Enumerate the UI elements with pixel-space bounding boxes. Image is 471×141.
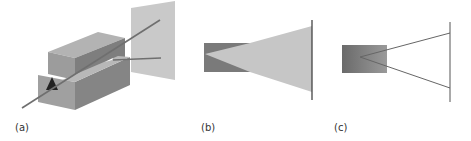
- panel-label-a: (a): [15, 122, 29, 133]
- panel-a-diagram: [22, 1, 175, 110]
- panel-label-b: (b): [201, 122, 215, 133]
- panel-label-c: (c): [334, 122, 347, 133]
- light-fan: [205, 26, 312, 92]
- panel-c-diagram: [342, 22, 450, 102]
- screen-a: [131, 1, 175, 80]
- figure-canvas: [0, 0, 471, 141]
- panel-b-diagram: [204, 20, 312, 100]
